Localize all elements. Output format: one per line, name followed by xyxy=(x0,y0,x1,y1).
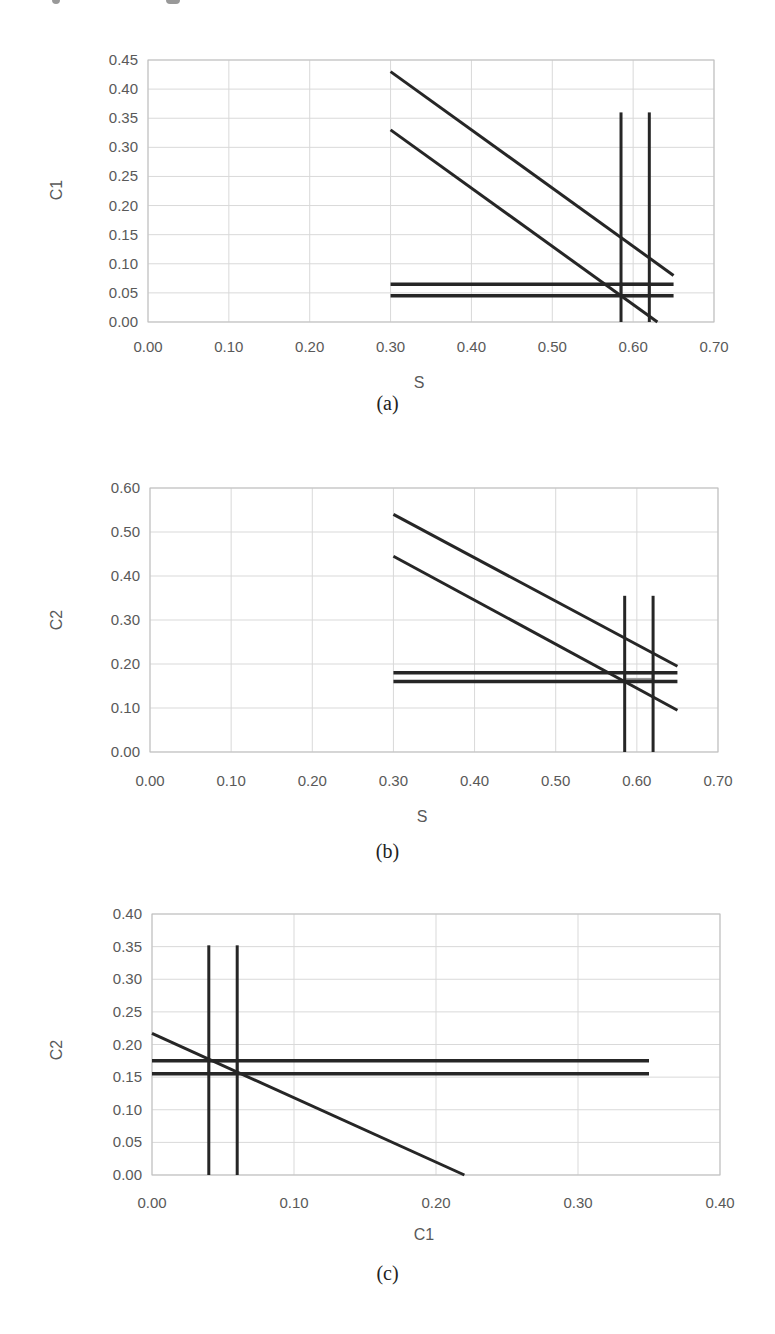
y-tick-label: 0.25 xyxy=(113,1003,142,1020)
x-tick-label: 0.40 xyxy=(705,1194,734,1211)
chart-c-plot: 0.000.050.100.150.200.250.300.350.400.00… xyxy=(0,0,775,1334)
y-tick-label: 0.05 xyxy=(113,1133,142,1150)
x-tick-label: 0.30 xyxy=(563,1194,592,1211)
x-tick-label: 0.10 xyxy=(279,1194,308,1211)
caption-c: (c) xyxy=(0,1262,775,1285)
y-tick-label: 0.00 xyxy=(113,1166,142,1183)
feasible-region xyxy=(209,1061,237,1074)
x-tick-label: 0.20 xyxy=(421,1194,450,1211)
constraint-line xyxy=(152,1033,464,1175)
y-tick-label: 0.30 xyxy=(113,970,142,987)
chart-panel-c: 0.000.050.100.150.200.250.300.350.400.00… xyxy=(0,0,775,1334)
y-tick-label: 0.40 xyxy=(113,905,142,922)
y-tick-label: 0.35 xyxy=(113,938,142,955)
x-axis-title: C1 xyxy=(414,1226,435,1243)
y-tick-label: 0.20 xyxy=(113,1036,142,1053)
y-tick-label: 0.15 xyxy=(113,1068,142,1085)
y-tick-label: 0.10 xyxy=(113,1101,142,1118)
x-tick-label: 0.00 xyxy=(137,1194,166,1211)
y-axis-title: C2 xyxy=(48,1040,65,1061)
